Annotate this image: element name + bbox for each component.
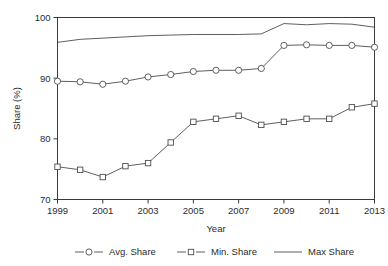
data-point-marker — [326, 42, 332, 48]
series-max-share — [58, 24, 375, 43]
data-point-marker — [236, 113, 241, 118]
data-point-marker — [258, 65, 264, 71]
x-tick-label: 2007 — [228, 205, 249, 216]
data-point-marker — [100, 81, 106, 87]
x-axis-tick-labels: 19992001200320052007200920112013 — [47, 205, 385, 216]
y-axis-title: Share (%) — [11, 87, 22, 130]
data-point-marker — [213, 67, 219, 73]
data-point-marker — [303, 42, 309, 48]
data-point-marker — [77, 79, 83, 85]
legend-label: Min. Share — [211, 246, 257, 257]
chart-legend: Avg. ShareMin. ShareMax Share — [75, 246, 354, 257]
data-point-marker — [349, 105, 354, 110]
data-point-marker — [281, 119, 286, 124]
x-tick-label: 2011 — [319, 205, 339, 216]
x-tick-label: 2013 — [364, 205, 385, 216]
data-point-marker — [259, 122, 264, 127]
legend-label: Avg. Share — [109, 246, 156, 257]
y-axis-tick-labels: 708090100 — [35, 12, 51, 205]
data-point-marker — [236, 67, 242, 73]
data-point-marker — [100, 174, 105, 179]
data-point-marker — [327, 116, 332, 121]
x-tick-label: 1999 — [47, 205, 68, 216]
x-axis-title: Year — [206, 223, 225, 234]
x-tick-label: 2003 — [138, 205, 159, 216]
legend-square-icon — [188, 249, 193, 254]
data-point-marker — [371, 44, 377, 50]
legend-circle-icon — [86, 249, 92, 255]
data-point-marker — [55, 164, 60, 169]
legend-item-min-share[interactable]: Min. Share — [177, 246, 257, 257]
y-tick-label: 90 — [40, 73, 51, 84]
data-point-marker — [123, 163, 128, 168]
y-tick-label: 70 — [40, 194, 51, 205]
data-point-marker — [54, 78, 60, 84]
legend-label: Max Share — [308, 246, 354, 257]
data-point-marker — [77, 167, 82, 172]
series-min-share — [55, 101, 377, 180]
legend-item-max-share[interactable]: Max Share — [274, 246, 354, 257]
data-point-marker — [372, 101, 377, 106]
data-point-marker — [122, 78, 128, 84]
line-chart: 708090100 199920012003200520072009201120… — [0, 0, 388, 266]
data-point-marker — [349, 42, 355, 48]
legend-item-avg-share[interactable]: Avg. Share — [75, 246, 156, 257]
x-tick-label: 2009 — [273, 205, 294, 216]
data-point-marker — [213, 116, 218, 121]
data-point-marker — [168, 71, 174, 77]
x-tick-label: 2001 — [92, 205, 113, 216]
chart-container: 708090100 199920012003200520072009201120… — [0, 0, 388, 266]
series-layer — [54, 24, 377, 180]
x-tick-label: 2005 — [183, 205, 204, 216]
data-point-marker — [304, 116, 309, 121]
data-point-marker — [145, 160, 150, 165]
series-avg-share — [54, 42, 377, 88]
data-point-marker — [145, 74, 151, 80]
data-point-marker — [281, 42, 287, 48]
data-point-marker — [168, 140, 173, 145]
y-tick-label: 80 — [40, 133, 51, 144]
y-tick-label: 100 — [35, 12, 51, 23]
data-point-marker — [191, 119, 196, 124]
data-point-marker — [190, 68, 196, 74]
